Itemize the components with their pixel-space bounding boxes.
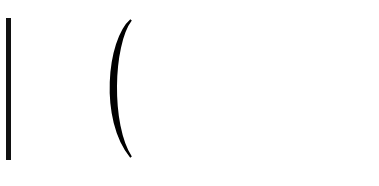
chord-diagram [0,0,379,186]
nut [6,18,11,160]
barre-arc [111,20,131,157]
